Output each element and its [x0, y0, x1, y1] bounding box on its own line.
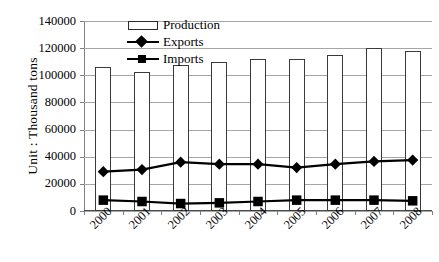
- legend-label: Production: [163, 18, 220, 31]
- x-tick-mark: [355, 211, 356, 215]
- y-tick-label: 100000: [20, 69, 76, 82]
- marker-diamond: [98, 166, 109, 177]
- x-tick-mark: [316, 211, 317, 215]
- y-tick-label: 40000: [20, 150, 76, 163]
- x-axis-tick-labels: 200020012002200320042005200620072008: [84, 216, 432, 262]
- y-axis-tick-labels: 020000400006000080000100000120000140000: [20, 0, 76, 262]
- legend-item: Exports: [124, 33, 203, 50]
- chart-container: Unit : Thousand tons 0200004000060000800…: [0, 0, 439, 262]
- legend-label: Imports: [163, 52, 203, 65]
- x-tick-mark: [84, 211, 85, 215]
- y-tick-label: 120000: [20, 42, 76, 55]
- x-tick-mark: [123, 211, 124, 215]
- y-tick-label: 140000: [20, 15, 76, 28]
- marker-square: [408, 196, 418, 206]
- marker-diamond: [330, 159, 341, 170]
- marker-diamond: [214, 159, 225, 170]
- x-tick-mark: [277, 211, 278, 215]
- x-tick-mark: [239, 211, 240, 215]
- marker-square: [99, 195, 108, 205]
- marker-square: [292, 195, 302, 205]
- y-tick-label: 0: [20, 205, 76, 218]
- marker-diamond: [368, 156, 379, 167]
- bar-swatch-icon: [128, 21, 158, 30]
- diamond-marker-icon: [135, 35, 148, 48]
- legend-item: Production: [124, 16, 220, 33]
- marker-diamond: [136, 164, 147, 175]
- legend-square-line-icon: [124, 52, 162, 66]
- legend-diamond-line-icon: [124, 35, 162, 49]
- x-tick-mark: [393, 211, 394, 215]
- legend-bar-swatch-icon: [124, 18, 162, 32]
- marker-diamond: [252, 159, 263, 170]
- chart-legend: ProductionExportsImports: [124, 16, 274, 68]
- marker-diamond: [407, 155, 418, 166]
- x-tick-mark: [432, 211, 433, 215]
- marker-square: [369, 195, 379, 205]
- square-marker-icon: [138, 55, 146, 63]
- legend-label: Exports: [163, 35, 203, 48]
- marker-diamond: [291, 162, 302, 173]
- y-tick-label: 60000: [20, 123, 76, 136]
- y-tick-label: 80000: [20, 96, 76, 109]
- x-tick-mark: [200, 211, 201, 215]
- x-tick-mark: [161, 211, 162, 215]
- marker-diamond: [175, 157, 186, 168]
- legend-item: Imports: [124, 50, 203, 67]
- marker-square: [331, 195, 341, 205]
- y-tick-label: 20000: [20, 177, 76, 190]
